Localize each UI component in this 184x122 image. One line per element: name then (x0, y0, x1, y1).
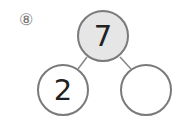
number-bond-diagram: 7 2 (0, 0, 184, 122)
whole-value: 7 (94, 19, 112, 53)
connector-right (120, 57, 131, 69)
part-circle-right[interactable] (121, 65, 171, 115)
connector-left (78, 57, 87, 69)
part-left-value: 2 (54, 73, 72, 107)
